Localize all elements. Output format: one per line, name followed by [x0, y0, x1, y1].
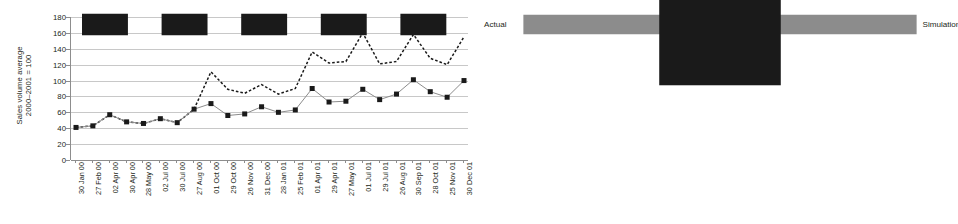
y-tick-label-140: 140	[53, 44, 66, 53]
x-axis-tick-labels: 30 Jan 0027 Feb 0002 Apr 0030 Apr 0028 M…	[70, 162, 468, 224]
simulation-marker-7	[192, 107, 197, 112]
y-axis-title-line1: Sales volume average	[15, 46, 24, 124]
x-tick-label-13: 25 Feb 01	[297, 162, 304, 195]
legend-label-actual: Actual	[484, 20, 507, 29]
x-tick-label-11: 31 Dec 00	[264, 162, 271, 195]
x-tick-label-18: 29 Jul 01	[382, 162, 389, 192]
x-tick-label-4: 28 May 00	[145, 162, 152, 196]
x-tick-label-15: 29 Apr 01	[331, 162, 338, 193]
line-square-marker-glyph	[521, 0, 919, 96]
x-tick-label-9: 29 Oct 00	[230, 162, 237, 194]
y-tick-label-100: 100	[53, 76, 66, 85]
y-tick-label-60: 60	[57, 108, 66, 117]
chart-legend: Actual Simulation – no advertising	[82, 18, 958, 31]
x-tick-label-5: 02 Jul 00	[162, 162, 169, 192]
x-tick-label-17: 01 Jul 01	[365, 162, 372, 192]
x-tick-label-7: 27 Aug 00	[196, 162, 203, 195]
x-tick-label-8: 01 Oct 00	[213, 162, 220, 194]
x-tick-label-23: 30 Dec 01	[466, 162, 473, 195]
y-tick-label-20: 20	[57, 140, 66, 149]
simulation-marker-3	[124, 119, 129, 124]
y-tick-label-180: 180	[53, 13, 66, 22]
x-tick-label-1: 27 Feb 00	[95, 162, 102, 195]
simulation-marker-11	[259, 104, 264, 109]
x-tick-label-12: 28 Jan 01	[280, 162, 287, 194]
simulation-marker-15	[327, 100, 332, 105]
legend-label-simulation: Simulation – no advertising	[923, 20, 958, 29]
y-tick-label-80: 80	[57, 92, 66, 101]
x-tick-label-0: 30 Jan 00	[78, 162, 85, 194]
x-tick-label-22: 25 Nov 01	[449, 162, 456, 195]
simulation-marker-9	[225, 113, 230, 118]
x-tick-label-14: 01 Apr 01	[314, 162, 321, 193]
simulation-marker-18	[377, 97, 382, 102]
y-tick-label-40: 40	[57, 124, 66, 133]
x-tick-label-19: 26 Aug 01	[399, 162, 406, 195]
simulation-marker-6	[175, 120, 180, 125]
legend-item-simulation: Simulation – no advertising	[521, 0, 958, 96]
simulation-marker-8	[208, 101, 213, 106]
simulation-marker-5	[158, 116, 163, 121]
line-square-marker-key-icon	[521, 0, 919, 96]
y-axis-title-text: Sales volume average 2000–2001 = 100	[15, 46, 34, 124]
simulation-marker-2	[107, 112, 112, 117]
simulation-marker-12	[276, 110, 281, 115]
x-tick-label-3: 30 Apr 00	[129, 162, 136, 193]
x-tick-label-10: 26 Nov 00	[247, 162, 254, 195]
y-axis-title: Sales volume average 2000–2001 = 100	[0, 0, 48, 170]
x-tick-label-21: 28 Oct 01	[432, 162, 439, 194]
simulation-marker-16	[343, 99, 348, 104]
x-tick-label-2: 02 Apr 00	[112, 162, 119, 193]
simulation-marker-0	[74, 125, 79, 130]
y-tick-label-160: 160	[53, 28, 66, 37]
y-tick-label-120: 120	[53, 60, 66, 69]
x-tick-label-20: 30 Sep 01	[415, 162, 422, 195]
y-axis-title-line2: 2000–2001 = 100	[24, 46, 33, 124]
x-tick-label-6: 30 Jul 00	[179, 162, 186, 192]
dashed-line-glyph	[82, 0, 480, 96]
simulation-marker-4	[141, 121, 146, 126]
simulation-marker-13	[293, 107, 298, 112]
dashed-line-key-icon	[82, 0, 480, 96]
simulation-marker-1	[90, 123, 95, 128]
x-tick-label-16: 27 May 01	[348, 162, 355, 196]
legend-item-actual: Actual	[82, 0, 507, 96]
simulation-marker-10	[242, 111, 247, 116]
